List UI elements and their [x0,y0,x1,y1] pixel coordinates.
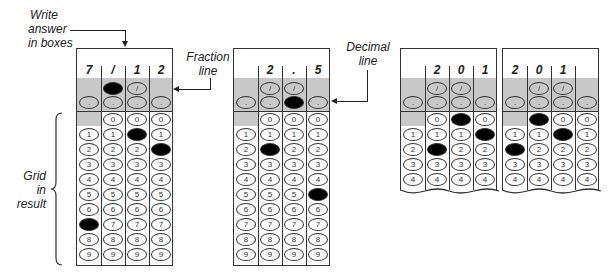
digit-bubble[interactable]: 1 [103,128,123,141]
digit-bubble[interactable]: 1 [553,128,573,141]
decimal-point-bubble[interactable]: . [529,96,549,109]
digit-bubble[interactable]: 1 [236,128,256,141]
digit-bubble[interactable]: 2 [577,143,597,156]
digit-bubble[interactable]: 8 [79,233,99,246]
digit-bubble[interactable]: 0 [427,113,447,126]
digit-bubble[interactable]: 7 [284,218,304,231]
answer-box[interactable] [575,63,599,78]
digit-bubble[interactable]: 5 [308,188,328,201]
answer-box[interactable]: 0 [527,63,551,78]
digit-bubble[interactable]: 3 [553,158,573,171]
digit-bubble[interactable]: 2 [427,143,447,156]
digit-bubble[interactable]: 4 [236,173,256,186]
answer-box[interactable]: 2 [503,63,527,78]
digit-bubble[interactable]: 8 [284,233,304,246]
digit-bubble[interactable]: 3 [79,158,99,171]
digit-bubble[interactable]: 4 [403,173,423,186]
decimal-point-bubble[interactable]: . [103,96,123,109]
decimal-point-bubble[interactable]: . [79,96,99,109]
digit-bubble[interactable]: 3 [151,158,171,171]
digit-bubble[interactable]: 5 [103,188,123,201]
digit-bubble[interactable]: 1 [79,128,99,141]
digit-bubble[interactable]: 9 [79,248,99,261]
digit-bubble[interactable]: 9 [236,248,256,261]
digit-bubble[interactable]: 2 [553,143,573,156]
digit-bubble[interactable]: 2 [308,143,328,156]
digit-bubble[interactable]: 1 [451,128,471,141]
digit-bubble[interactable]: 8 [236,233,256,246]
digit-bubble[interactable]: 9 [260,248,280,261]
digit-bubble[interactable]: 3 [451,158,471,171]
digit-bubble[interactable]: 0 [308,113,328,126]
answer-box[interactable]: 1 [125,63,149,78]
digit-bubble[interactable]: 2 [127,143,147,156]
digit-bubble[interactable]: 1 [284,128,304,141]
decimal-point-bubble[interactable]: . [451,96,471,109]
digit-bubble[interactable]: 9 [127,248,147,261]
digit-bubble[interactable]: 6 [103,203,123,216]
digit-bubble[interactable]: 2 [151,143,171,156]
digit-bubble[interactable]: 6 [260,203,280,216]
answer-box[interactable]: 2 [425,63,449,78]
slash-bubble[interactable]: / [284,82,304,95]
answer-box[interactable]: / [101,63,125,78]
digit-bubble[interactable]: 8 [127,233,147,246]
digit-bubble[interactable]: 7 [260,218,280,231]
slash-bubble[interactable]: / [529,82,549,95]
digit-bubble[interactable]: 0 [103,113,123,126]
digit-bubble[interactable]: 3 [577,158,597,171]
slash-bubble[interactable]: / [451,82,471,95]
answer-box[interactable]: 2 [149,63,173,78]
digit-bubble[interactable]: 3 [236,158,256,171]
answer-box[interactable] [234,63,258,78]
digit-bubble[interactable]: 0 [151,113,171,126]
digit-bubble[interactable]: 1 [127,128,147,141]
digit-bubble[interactable]: 2 [284,143,304,156]
decimal-point-bubble[interactable]: . [505,96,525,109]
digit-bubble[interactable]: 8 [260,233,280,246]
digit-bubble[interactable]: 3 [475,158,495,171]
digit-bubble[interactable]: 1 [529,128,549,141]
digit-bubble[interactable]: 4 [308,173,328,186]
digit-bubble[interactable]: 2 [236,143,256,156]
decimal-point-bubble[interactable]: . [127,96,147,109]
digit-bubble[interactable]: 7 [151,218,171,231]
digit-bubble[interactable]: 0 [553,113,573,126]
slash-bubble[interactable]: / [103,82,123,95]
digit-bubble[interactable]: 4 [529,173,549,186]
digit-bubble[interactable]: 4 [284,173,304,186]
digit-bubble[interactable]: 3 [403,158,423,171]
digit-bubble[interactable]: 9 [308,248,328,261]
decimal-point-bubble[interactable]: . [308,96,328,109]
digit-bubble[interactable]: 0 [127,113,147,126]
decimal-point-bubble[interactable]: . [284,96,304,109]
digit-bubble[interactable]: 9 [151,248,171,261]
answer-box[interactable]: 1 [551,63,575,78]
digit-bubble[interactable]: 4 [475,173,495,186]
digit-bubble[interactable]: 9 [103,248,123,261]
digit-bubble[interactable]: 4 [127,173,147,186]
digit-bubble[interactable]: 2 [79,143,99,156]
digit-bubble[interactable]: 5 [151,188,171,201]
decimal-point-bubble[interactable]: . [577,96,597,109]
decimal-point-bubble[interactable]: . [151,96,171,109]
digit-bubble[interactable]: 5 [236,188,256,201]
digit-bubble[interactable]: 0 [529,113,549,126]
digit-bubble[interactable]: 4 [103,173,123,186]
digit-bubble[interactable]: 1 [475,128,495,141]
digit-bubble[interactable]: 2 [529,143,549,156]
digit-bubble[interactable]: 7 [308,218,328,231]
digit-bubble[interactable]: 3 [260,158,280,171]
decimal-point-bubble[interactable]: . [260,96,280,109]
digit-bubble[interactable]: 4 [577,173,597,186]
digit-bubble[interactable]: 3 [529,158,549,171]
digit-bubble[interactable]: 0 [284,113,304,126]
decimal-point-bubble[interactable]: . [236,96,256,109]
digit-bubble[interactable]: 8 [103,233,123,246]
decimal-point-bubble[interactable]: . [553,96,573,109]
digit-bubble[interactable]: 0 [577,113,597,126]
digit-bubble[interactable]: 1 [151,128,171,141]
digit-bubble[interactable]: 1 [260,128,280,141]
digit-bubble[interactable]: 2 [451,143,471,156]
slash-bubble[interactable]: / [260,82,280,95]
